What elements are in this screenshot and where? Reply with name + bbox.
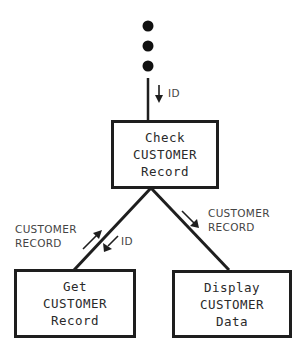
node-get-customer-record[interactable]: Get CUSTOMER Record xyxy=(14,269,136,338)
left-flow-down-label: ID xyxy=(121,234,133,248)
node-label-line: CUSTOMER xyxy=(133,146,197,163)
left-flow-up-label: CUSTOMER RECORD xyxy=(15,222,77,250)
node-display-customer-data[interactable]: Display CUSTOMER Data xyxy=(172,270,292,338)
node-label-line: Data xyxy=(216,313,248,330)
right-flow-label: CUSTOMER RECORD xyxy=(208,206,270,234)
arrow-up-right-icon xyxy=(83,230,102,249)
node-label-line: Record xyxy=(141,163,189,180)
top-flow-label: ID xyxy=(168,86,180,100)
node-label-line: Get xyxy=(63,278,87,295)
node-label-line: CUSTOMER xyxy=(200,296,264,313)
arrow-down-icon xyxy=(155,85,163,103)
node-label-line: Check xyxy=(145,129,185,146)
node-check-customer-record[interactable]: Check CUSTOMER Record xyxy=(111,120,219,189)
node-label-line: Record xyxy=(51,312,99,329)
arrow-down-right-icon xyxy=(182,211,199,228)
continuation-dots xyxy=(143,21,154,72)
node-label-line: CUSTOMER xyxy=(43,295,107,312)
node-label-line: Display xyxy=(204,279,260,296)
